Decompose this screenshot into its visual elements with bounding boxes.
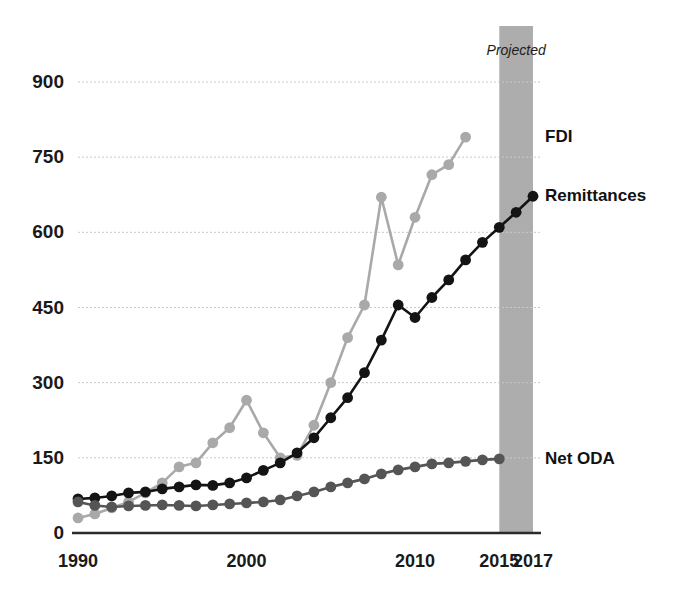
data-point-marker — [309, 487, 320, 498]
data-point-marker — [207, 500, 218, 511]
data-point-marker — [224, 499, 235, 510]
data-point-marker — [140, 500, 151, 511]
data-point-marker — [174, 461, 185, 472]
data-point-marker — [426, 292, 437, 303]
data-point-marker — [511, 207, 522, 218]
data-point-marker — [325, 377, 336, 388]
series-label-fdi: FDI — [545, 127, 572, 147]
data-point-marker — [410, 461, 421, 472]
series-label-net-oda: Net ODA — [545, 449, 615, 469]
data-point-marker — [174, 481, 185, 492]
data-point-marker — [241, 498, 252, 509]
data-point-marker — [191, 479, 202, 490]
data-point-marker — [443, 159, 454, 170]
data-point-marker — [393, 260, 404, 271]
data-point-marker — [191, 457, 202, 468]
series-line — [78, 196, 533, 499]
data-point-marker — [410, 312, 421, 323]
data-point-marker — [89, 500, 100, 511]
data-point-marker — [258, 497, 269, 508]
data-point-marker — [309, 420, 320, 431]
data-point-marker — [325, 481, 336, 492]
data-point-marker — [292, 447, 303, 458]
data-point-marker — [174, 500, 185, 511]
data-point-marker — [477, 454, 488, 465]
data-point-marker — [460, 456, 471, 467]
data-point-marker — [157, 500, 168, 511]
projected-band-label: Projected — [487, 42, 546, 58]
data-point-marker — [443, 275, 454, 286]
y-axis-tick-label: 600 — [0, 221, 64, 243]
data-point-marker — [73, 513, 84, 524]
x-axis-tick-label: 1990 — [58, 551, 98, 572]
data-point-marker — [106, 491, 117, 502]
y-axis-tick-label: 450 — [0, 297, 64, 319]
data-point-marker — [207, 437, 218, 448]
x-axis-tick-label: 2010 — [395, 551, 435, 572]
data-point-marker — [241, 472, 252, 483]
data-point-marker — [258, 427, 269, 438]
series-line — [78, 137, 466, 518]
series-label-remittances: Remittances — [545, 186, 646, 206]
data-point-marker — [376, 468, 387, 479]
y-axis-tick-label: 300 — [0, 372, 64, 394]
series-net-oda — [73, 453, 505, 512]
data-point-marker — [477, 237, 488, 248]
data-point-marker — [258, 465, 269, 476]
data-point-marker — [393, 464, 404, 475]
data-point-marker — [443, 457, 454, 468]
data-point-marker — [191, 501, 202, 512]
data-point-marker — [275, 457, 286, 468]
data-point-marker — [376, 192, 387, 203]
data-point-marker — [106, 502, 117, 513]
data-point-marker — [376, 335, 387, 346]
data-point-marker — [140, 487, 151, 498]
x-axis-tick-label: 2000 — [226, 551, 266, 572]
data-point-marker — [73, 497, 84, 508]
data-point-marker — [426, 458, 437, 469]
data-point-marker — [342, 392, 353, 403]
data-point-marker — [342, 332, 353, 343]
data-point-marker — [275, 495, 286, 506]
data-point-marker — [224, 422, 235, 433]
data-point-marker — [393, 300, 404, 311]
data-point-marker — [123, 488, 134, 499]
data-point-marker — [292, 491, 303, 502]
data-point-marker — [342, 477, 353, 488]
chart-container: 0150300450600750900 19902000201020152017… — [0, 0, 682, 608]
data-point-marker — [494, 222, 505, 233]
data-point-marker — [494, 453, 505, 464]
data-point-marker — [309, 432, 320, 443]
y-axis-tick-label: 150 — [0, 447, 64, 469]
data-point-marker — [359, 367, 370, 378]
data-point-marker — [325, 412, 336, 423]
data-point-marker — [224, 477, 235, 488]
data-point-marker — [460, 132, 471, 143]
gridlines — [78, 82, 541, 458]
y-axis-tick-label: 750 — [0, 146, 64, 168]
data-point-marker — [207, 480, 218, 491]
y-axis-tick-label: 0 — [0, 522, 64, 544]
data-point-marker — [157, 484, 168, 495]
data-point-marker — [528, 191, 539, 202]
data-series-group — [73, 132, 539, 524]
data-point-marker — [426, 169, 437, 180]
data-point-marker — [410, 212, 421, 223]
chart-plot-area — [0, 0, 682, 608]
data-point-marker — [460, 254, 471, 265]
data-point-marker — [359, 473, 370, 484]
data-point-marker — [241, 395, 252, 406]
y-axis-tick-label: 900 — [0, 71, 64, 93]
data-point-marker — [359, 300, 370, 311]
x-axis-tick-label: 2017 — [513, 551, 553, 572]
data-point-marker — [123, 501, 134, 512]
